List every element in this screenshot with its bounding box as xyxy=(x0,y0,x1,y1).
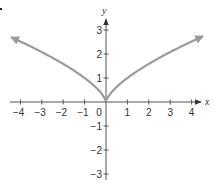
graph-plot: xy −4−3−2−101234−3−2−1123 xyxy=(0,0,214,183)
x-tick-label: 1 xyxy=(125,107,131,118)
x-tick-label: −3 xyxy=(34,107,46,118)
curve-right-branch xyxy=(107,37,202,99)
y-tick-label: 2 xyxy=(96,49,102,60)
curves xyxy=(12,37,202,100)
y-tick-label: −3 xyxy=(91,169,103,180)
y-tick-label: 3 xyxy=(96,25,102,36)
x-tick-label: −2 xyxy=(56,107,68,118)
x-tick-label: −4 xyxy=(13,107,25,118)
y-tick-label: −2 xyxy=(91,145,103,156)
x-tick-label: 3 xyxy=(167,107,173,118)
x-tick-label: 2 xyxy=(146,107,152,118)
y-tick-label: 1 xyxy=(96,73,102,84)
y-tick-label: −1 xyxy=(91,121,103,132)
x-tick-label: −1 xyxy=(77,107,89,118)
curve-left-branch xyxy=(12,38,106,100)
x-axis-label: x xyxy=(204,96,210,107)
x-tick-label: 4 xyxy=(189,107,195,118)
x-tick-label: 0 xyxy=(96,107,102,118)
y-axis-label: y xyxy=(101,5,107,16)
